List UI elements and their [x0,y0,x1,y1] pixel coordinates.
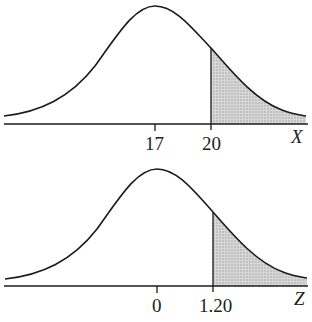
top-normal-curve [4,6,308,131]
top-axis-label: X [291,127,303,146]
top-cutoff-label: 20 [202,134,221,153]
bottom-normal-curve [4,169,308,293]
bottom-axis-label: Z [294,289,305,308]
normal-curves-diagram [0,0,312,322]
top-mean-label: 17 [145,134,164,153]
bottom-cutoff-label: 1.20 [199,296,232,315]
bottom-mean-label: 0 [152,296,162,315]
